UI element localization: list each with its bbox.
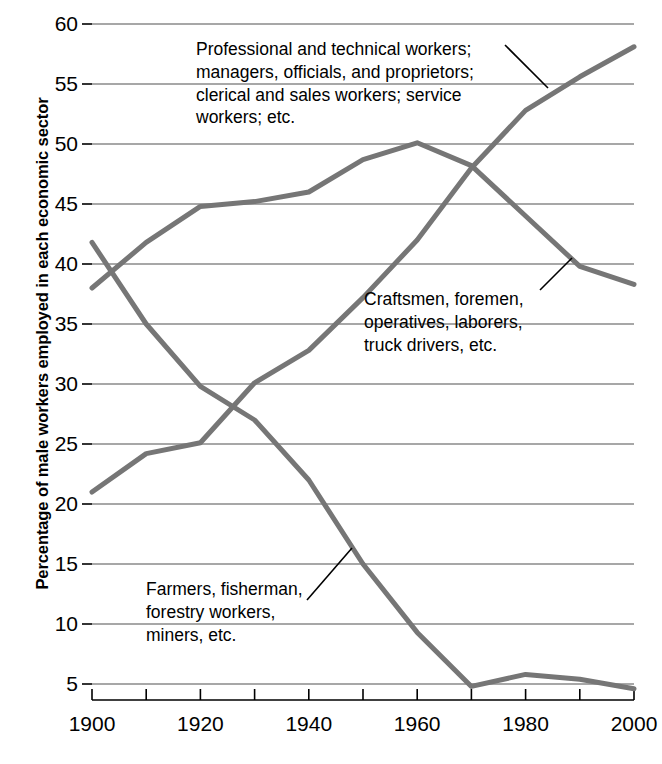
annotation-farmers: Farmers, fisherman, forestry workers, mi… [146, 578, 356, 646]
y-tick-label: 15 [30, 552, 78, 576]
x-tick-label: 2000 [589, 712, 662, 736]
annotation-professional: Professional and technical workers; mana… [196, 38, 516, 129]
y-tick-label: 60 [30, 12, 78, 36]
y-tick-label: 5 [30, 672, 78, 696]
x-tick-label: 1920 [155, 712, 245, 736]
series-line-0 [92, 143, 634, 288]
y-tick-label: 10 [30, 612, 78, 636]
y-tick-label: 20 [30, 492, 78, 516]
y-tick-label: 55 [30, 72, 78, 96]
y-tick-label: 35 [30, 312, 78, 336]
y-tick-label: 50 [30, 132, 78, 156]
leader-line-craftsmen [540, 258, 572, 290]
x-tick-label: 1960 [372, 712, 462, 736]
x-tick-label: 1940 [264, 712, 354, 736]
y-tick-label: 40 [30, 252, 78, 276]
y-tick-label: 45 [30, 192, 78, 216]
annotation-craftsmen: Craftsmen, foremen, operatives, laborers… [364, 288, 574, 356]
x-tick-label: 1900 [47, 712, 137, 736]
y-tick-label: 25 [30, 432, 78, 456]
x-tick-label: 1980 [481, 712, 571, 736]
y-tick-label: 30 [30, 372, 78, 396]
